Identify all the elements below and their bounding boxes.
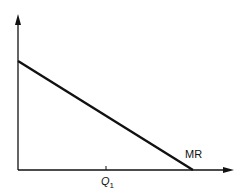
q1-label: Q1 [101, 175, 115, 190]
y-axis-arrow-icon [15, 14, 21, 25]
mr-label: MR [185, 148, 202, 160]
q1-label-sub: 1 [110, 181, 115, 190]
x-axis-arrow-icon [223, 167, 234, 173]
chart-canvas: MR Q1 [0, 0, 244, 194]
mr-curve [18, 61, 193, 170]
